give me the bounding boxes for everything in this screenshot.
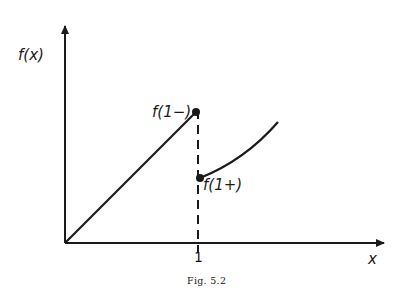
y-axis-label: f(x) bbox=[18, 46, 44, 64]
x-tick-label-1: 1 bbox=[194, 249, 203, 265]
left-limit-point bbox=[192, 108, 200, 116]
figure-caption: Fig. 5.2 bbox=[187, 275, 226, 286]
right-segment-curve bbox=[200, 122, 278, 178]
left-limit-label: f(1−) bbox=[152, 103, 191, 121]
figure: f(x) x 1 f(1−) f(1+) Fig. 5.2 bbox=[0, 0, 407, 297]
left-segment-line bbox=[65, 112, 196, 243]
x-axis-label: x bbox=[367, 250, 377, 268]
right-limit-label: f(1+) bbox=[203, 176, 242, 194]
